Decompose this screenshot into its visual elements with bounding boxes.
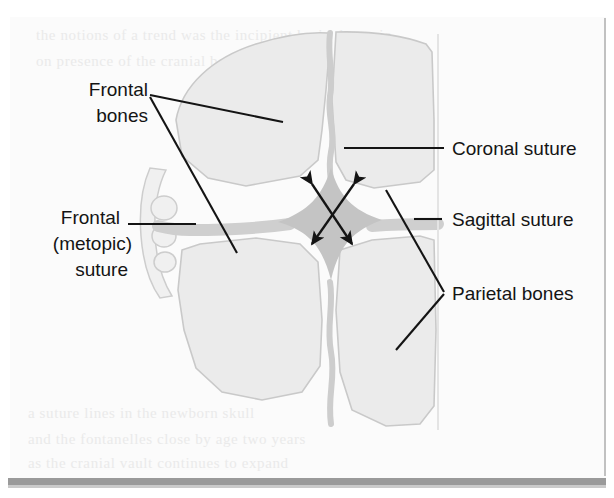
label-metopic-line-3: suture	[75, 259, 128, 280]
right-parietal-bone	[336, 236, 436, 426]
sagittal-suture-band	[329, 282, 332, 424]
label-frontal-bones-line-2: bones	[96, 105, 148, 126]
label-coronal-suture[interactable]: Coronal suture	[452, 138, 577, 159]
ghost-line-bot-2: and the fontanelles close by age two yea…	[28, 431, 306, 447]
label-parietal-bones[interactable]: Parietal bones	[452, 283, 573, 304]
label-metopic-line-1: Frontal	[61, 207, 120, 228]
label-parietal-bones-text: Parietal bones	[452, 283, 573, 304]
label-sagittal-suture[interactable]: Sagittal suture	[452, 209, 573, 230]
orbit-upper	[151, 196, 177, 220]
bottom-edge-bar	[8, 478, 606, 485]
label-metopic-line-2: (metopic)	[53, 233, 132, 254]
right-frontal-bone	[332, 32, 434, 188]
ghost-line-bot-1: a suture lines in the newborn skull	[28, 405, 255, 421]
orbit-lower	[154, 252, 176, 272]
ghost-line-bot-3: as the cranial vault continues to expand	[28, 455, 289, 471]
label-frontal-bones-line-1: Frontal	[89, 79, 148, 100]
bottom-edge-shadow	[8, 485, 606, 488]
label-sagittal-suture-text: Sagittal suture	[452, 209, 573, 230]
skull-suture-diagram: the notions of a trend was the incipient…	[0, 0, 614, 498]
figure-root: the notions of a trend was the incipient…	[0, 0, 614, 498]
label-coronal-suture-text: Coronal suture	[452, 138, 577, 159]
